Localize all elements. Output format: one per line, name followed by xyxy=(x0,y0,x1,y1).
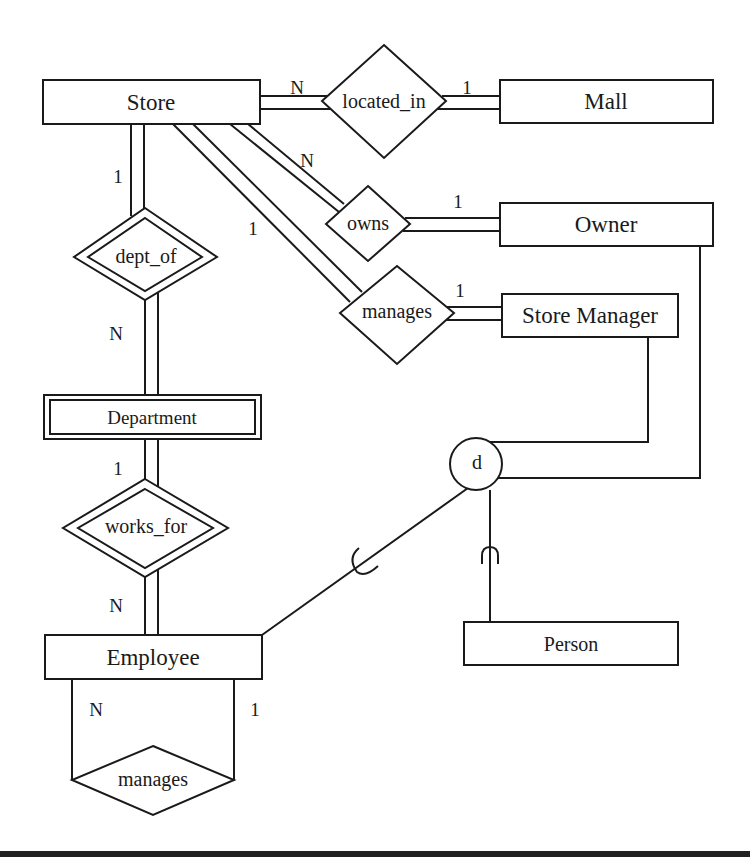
connector-works-for-employee xyxy=(145,570,158,635)
relationship-located-in-label: located_in xyxy=(342,90,425,112)
relationship-owns[interactable]: owns xyxy=(326,186,410,261)
er-diagram: Store Mall Owner Store Manager Departmen… xyxy=(0,0,750,864)
cardinality-store-owns: N xyxy=(300,150,314,171)
cardinality-employee-works-for: N xyxy=(109,595,123,616)
connector-department-works-for xyxy=(145,439,158,486)
entity-store-manager[interactable]: Store Manager xyxy=(502,294,678,337)
entity-store-manager-label: Store Manager xyxy=(522,303,658,328)
entity-store[interactable]: Store xyxy=(43,80,260,124)
cardinality-store-located-in: N xyxy=(290,77,304,98)
cardinality-store-manages: 1 xyxy=(248,218,258,239)
entity-person[interactable]: Person xyxy=(464,622,678,665)
relationship-works-for-label: works_for xyxy=(105,515,188,537)
cardinality-mall-located-in: 1 xyxy=(462,77,472,98)
specialization-disjoint-circle[interactable]: d xyxy=(450,438,502,490)
entity-owner[interactable]: Owner xyxy=(500,203,713,246)
relationship-manages-employee-label: manages xyxy=(118,768,188,791)
entity-employee[interactable]: Employee xyxy=(45,635,262,679)
relationship-manages-employee[interactable]: manages xyxy=(72,746,234,815)
connector-owns-owner xyxy=(403,218,500,231)
entity-mall-label: Mall xyxy=(584,89,627,114)
relationship-located-in[interactable]: located_in xyxy=(322,45,446,158)
connector-dept-of-department xyxy=(145,293,158,395)
entity-owner-label: Owner xyxy=(575,212,638,237)
entity-employee-label: Employee xyxy=(106,645,199,670)
entity-department-weak[interactable]: Department xyxy=(44,395,261,439)
connector-store-manages xyxy=(173,124,362,302)
cardinality-department-dept-of: N xyxy=(109,323,123,344)
connector-employee-to-d xyxy=(262,488,468,635)
relationship-dept-of-label: dept_of xyxy=(115,245,176,268)
cardinality-department-works-for: 1 xyxy=(113,458,123,479)
entity-department-label: Department xyxy=(107,407,197,428)
cardinality-employee-manages-right: 1 xyxy=(250,699,260,720)
connector-store-manager-to-d xyxy=(470,337,648,442)
cardinality-owner-owns: 1 xyxy=(453,191,463,212)
relationship-owns-label: owns xyxy=(347,212,389,234)
connector-owner-to-d xyxy=(498,246,700,478)
relationship-manages-store[interactable]: manages xyxy=(340,266,454,364)
relationship-works-for-identifying[interactable]: works_for xyxy=(63,479,228,577)
connector-store-dept-of xyxy=(131,124,144,216)
entity-store-label: Store xyxy=(127,90,176,115)
entity-mall[interactable]: Mall xyxy=(500,80,713,123)
cardinality-store-dept-of: 1 xyxy=(113,166,123,187)
cardinality-employee-manages-left: N xyxy=(89,699,103,720)
entity-person-label: Person xyxy=(544,633,598,655)
bottom-rule xyxy=(0,851,750,857)
relationship-dept-of-identifying[interactable]: dept_of xyxy=(74,208,217,300)
specialization-symbol: d xyxy=(472,451,482,473)
cardinality-manager-manages: 1 xyxy=(455,280,465,301)
relationship-manages-store-label: manages xyxy=(362,300,432,323)
